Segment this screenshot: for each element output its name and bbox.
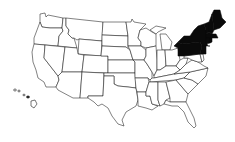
island-maui [27, 96, 30, 98]
state-colorado [82, 55, 108, 73]
state-north-dakota [102, 22, 128, 36]
state-arizona [56, 72, 82, 98]
state-kansas [108, 60, 135, 73]
island-molokai [23, 94, 25, 96]
state-maine [212, 10, 226, 30]
state-pennsylvania [174, 42, 202, 56]
island-hawaii [31, 100, 37, 108]
state-washington [40, 13, 63, 28]
state-florida [164, 100, 196, 128]
map-svg [0, 0, 235, 142]
state-new-mexico [80, 72, 104, 98]
state-connecticut [206, 38, 210, 44]
state-rhode-island [210, 38, 212, 43]
us-map: United States Northeast [0, 0, 235, 142]
state-wyoming [78, 39, 102, 56]
hawaii-inset [14, 89, 37, 108]
state-montana [66, 18, 103, 41]
island-kauai [14, 89, 17, 91]
island-oahu [18, 90, 20, 92]
